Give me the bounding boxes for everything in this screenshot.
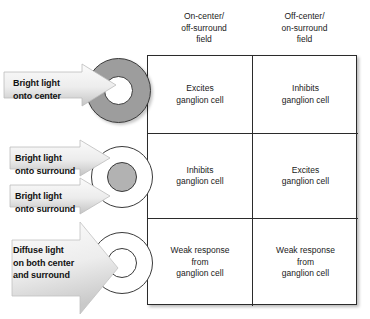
stimulus-label-bright-light-onto-surround-top: Bright light onto surround xyxy=(15,152,101,177)
stimulus-label-diffuse-light: Diffuse light on both center and surroun… xyxy=(13,244,105,282)
matrix-cell-r2c1: Inhibits ganglion cell xyxy=(148,134,253,219)
column-header-on-center: On-center/ off-surround field xyxy=(156,11,252,46)
diagram-canvas: On-center/ off-surround field Off-center… xyxy=(0,0,370,319)
matrix-cell-r2c2: Excites ganglion cell xyxy=(253,134,358,219)
stimulus-label-bright-light-onto-center: Bright light onto center xyxy=(13,77,93,102)
response-matrix: Excites ganglion cell Inhibits ganglion … xyxy=(147,55,357,305)
matrix-cell-r3c1: Weak response from ganglion cell xyxy=(148,219,253,306)
matrix-cell-r3c2: Weak response from ganglion cell xyxy=(253,219,358,306)
receptive-field-2-center xyxy=(107,162,137,192)
column-header-off-center: Off-center/ on-surround field xyxy=(252,11,357,46)
matrix-cell-r1c1: Excites ganglion cell xyxy=(148,56,253,134)
matrix-cell-r1c2: Inhibits ganglion cell xyxy=(253,56,358,134)
stimulus-label-bright-light-onto-surround-bottom: Bright light onto surround xyxy=(15,190,101,215)
